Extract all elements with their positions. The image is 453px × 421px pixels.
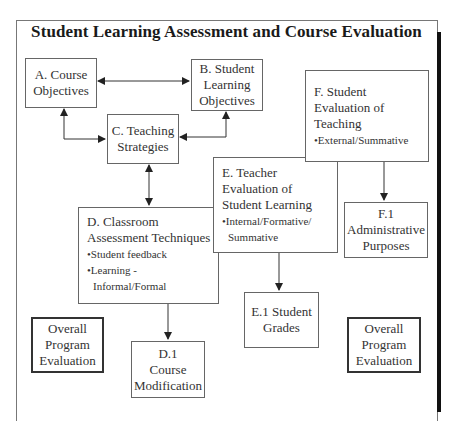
node-line: Modification: [134, 378, 202, 394]
node-bullet: •Learning -: [87, 262, 212, 278]
node-line: Learning: [204, 77, 251, 93]
node-line: Teaching: [314, 116, 422, 132]
node-line: Program: [362, 337, 407, 353]
node-line: Strategies: [117, 139, 168, 155]
node-line: Grades: [263, 320, 300, 336]
node-line: Evaluation of: [222, 181, 331, 197]
node-overall-program-evaluation-right: Overall Program Evaluation: [347, 317, 421, 373]
node-bullet: •Student feedback: [87, 246, 212, 262]
node-bullet: •External/Summative: [314, 132, 422, 148]
node-line: F. Student: [314, 84, 422, 100]
node-line: Evaluation: [356, 353, 412, 369]
node-line: Program: [45, 337, 90, 353]
node-line: Overall: [48, 321, 87, 337]
node-line: Objectives: [199, 93, 255, 109]
node-teacher-evaluation-of-student-learning: E. Teacher Evaluation of Student Learnin…: [213, 157, 338, 253]
node-line: Overall: [365, 321, 404, 337]
node-administrative-purposes: F.1 Administrative Purposes: [344, 202, 428, 258]
node-line: Purposes: [363, 238, 410, 254]
frame-shadow: [437, 32, 441, 412]
node-student-evaluation-of-teaching: F. Student Evaluation of Teaching •Exter…: [305, 70, 429, 162]
node-course-objectives: A. Course Objectives: [25, 58, 97, 108]
diagram-title: Student Learning Assessment and Course E…: [16, 22, 437, 42]
node-line: Evaluation of: [314, 100, 422, 116]
node-bullet: Summative: [222, 229, 331, 245]
node-line: Course: [150, 362, 187, 378]
node-line: F.1: [378, 206, 394, 222]
node-line: C. Teaching: [112, 123, 174, 139]
node-line: Student Learning: [222, 197, 331, 213]
node-student-grades: E.1 Student Grades: [244, 292, 319, 348]
node-line: B. Student: [200, 61, 255, 77]
node-teaching-strategies: C. Teaching Strategies: [107, 114, 179, 164]
node-course-modification: D.1 Course Modification: [131, 341, 205, 398]
node-line: E.1 Student: [251, 304, 312, 320]
node-line: A. Course: [35, 67, 88, 83]
node-overall-program-evaluation-left: Overall Program Evaluation: [31, 317, 104, 373]
node-line: D.1: [158, 346, 177, 362]
node-line: Objectives: [33, 83, 89, 99]
node-line: Administrative: [347, 222, 425, 238]
node-bullet: •Internal/Formative/: [222, 213, 331, 229]
node-line: Evaluation: [39, 353, 95, 369]
node-line: Assessment Techniques: [87, 230, 212, 246]
node-bullet: Informal/Formal: [87, 278, 212, 294]
node-classroom-assessment-techniques: D. Classroom Assessment Techniques •Stud…: [78, 207, 219, 304]
node-student-learning-objectives: B. Student Learning Objectives: [191, 59, 263, 111]
node-line: D. Classroom: [87, 214, 212, 230]
node-line: E. Teacher: [222, 165, 331, 181]
